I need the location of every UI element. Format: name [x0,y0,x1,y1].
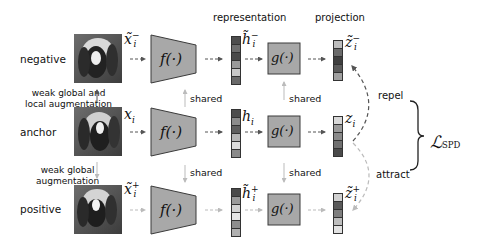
vector-cell [333,149,343,157]
vector-cell [231,36,241,45]
shared-label-encoder-top: shared [190,93,222,104]
vector-cell [231,142,241,150]
proj-symbol-anchor: zi [345,110,355,129]
projector-label-negative: g(·) [271,50,294,65]
vector-cell [231,134,241,142]
symbol-sub: i [354,42,357,52]
proj-symbol-positive: z̃+i [345,184,357,203]
rep-symbol-anchor: hi [242,108,254,127]
vector-cell [231,45,241,53]
proj-symbol-negative: z̃−i [345,33,357,52]
rep-vector-negative [231,36,240,85]
symbol-sub: i [133,189,136,199]
symbol-sub: i [354,193,357,203]
projector-label-anchor: g(·) [271,123,294,138]
vector-cell [231,69,241,77]
rep-symbol-positive: h̃+i [242,184,255,203]
vector-cell [333,193,343,202]
encoder-label-anchor: f(·) [160,123,182,141]
vector-cell [231,205,241,213]
image-anchor [74,107,122,156]
vector-cell [231,109,241,118]
vector-cell [333,116,343,125]
vector-cell [333,65,343,73]
rep-vector-anchor [231,109,240,158]
image-positive [74,185,122,234]
vector-cell [231,126,241,134]
vector-cell [333,133,343,141]
vector-cell [333,73,343,81]
input-symbol-anchor: xi [124,106,135,125]
vector-cell [231,197,241,205]
encoder-label-negative: f(·) [160,50,182,68]
attract-label: attract [376,169,410,180]
proj-vector-positive [333,193,342,234]
vector-cell [333,40,343,49]
repel-label: repel [378,90,403,101]
symbol-base: x [124,106,132,122]
vector-cell [333,141,343,149]
symbol-base: x̃ [124,31,132,47]
shared-label-projector-bottom: shared [289,167,321,178]
symbol-sub: i [253,193,256,203]
loss-symbol: ℒ [430,132,442,152]
symbol-sub: i [253,39,256,49]
vector-cell [231,221,241,229]
vector-cell [333,210,343,218]
rep-symbol-negative: h̃−i [242,30,255,49]
loss-label: ℒSPD [430,132,460,152]
symbol-base: h [242,108,251,124]
vector-cell [231,150,241,158]
repel-arrow [352,66,369,141]
input-symbol-negative: x̃−i [124,30,136,49]
vector-cell [333,202,343,210]
symbol-sub: i [251,117,254,127]
shared-label-encoder-bottom: shared [190,167,222,178]
symbol-sub: i [133,39,136,49]
symbol-sub: i [132,115,135,125]
vector-cell [231,188,241,197]
vector-cell [333,226,343,234]
shared-label-projector-top: shared [289,93,321,104]
symbol-base: h̃ [242,31,251,47]
rep-vector-positive [231,188,240,237]
vector-cell [231,118,241,126]
vector-cell [333,57,343,65]
vector-cell [333,125,343,133]
loss-subscript: SPD [442,140,460,150]
loss-brace [410,101,424,170]
input-symbol-positive: x̃+i [124,180,136,199]
vector-cell [231,77,241,85]
image-negative [74,34,122,83]
projector-label-positive: g(·) [271,201,294,216]
symbol-base: h̃ [242,185,251,201]
vector-cell [333,49,343,57]
symbol-base: x̃ [124,181,132,197]
encoder-label-positive: f(·) [160,201,182,219]
vector-cell [333,218,343,226]
vector-cell [231,61,241,69]
vector-cell [231,213,241,221]
proj-vector-negative [333,40,342,81]
vector-cell [231,229,241,237]
proj-vector-anchor [333,116,342,157]
vector-cell [231,53,241,61]
symbol-sub: i [352,119,355,129]
